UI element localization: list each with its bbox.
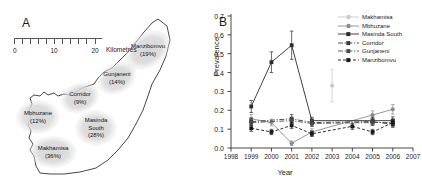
region-label: Mbhuzane(12%) bbox=[24, 110, 52, 125]
chart-series bbox=[330, 70, 334, 102]
data-point bbox=[270, 130, 274, 134]
x-tick-label: 1999 bbox=[244, 153, 258, 160]
map-outline-svg bbox=[0, 0, 200, 183]
region-name: Gunjaneni bbox=[103, 71, 130, 79]
region-prevalence: (12%) bbox=[24, 117, 52, 125]
y-tick-label: 0.4 bbox=[204, 69, 224, 76]
legend-item: Mbhuzane bbox=[338, 22, 402, 30]
region-label: Corridor(9%) bbox=[69, 91, 91, 106]
legend-marker bbox=[338, 56, 359, 64]
scale-tick-10: 10 bbox=[50, 47, 57, 54]
x-tick-label: 2001 bbox=[284, 153, 298, 160]
legend-label: Mbhuzane bbox=[362, 23, 390, 29]
chart-legend: MakhamisaMbhuzaneMasinda SouthCorridorGu… bbox=[338, 13, 402, 64]
data-point bbox=[391, 121, 395, 125]
data-point bbox=[371, 121, 375, 125]
legend-item: Masinda South bbox=[338, 30, 402, 38]
region-name: Manzibomvu bbox=[131, 43, 165, 51]
data-point bbox=[310, 122, 314, 126]
region-prevalence: (28%) bbox=[85, 132, 108, 140]
data-point bbox=[330, 84, 334, 88]
legend-marker bbox=[338, 39, 359, 47]
region-name: Masinda bbox=[85, 117, 108, 125]
y-tick-label: 0.2 bbox=[204, 107, 224, 114]
data-point bbox=[269, 120, 273, 124]
data-point bbox=[290, 141, 294, 145]
panel-b-chart: B Prevalence Year 0.00.10.20.30.40.50.60… bbox=[200, 0, 422, 183]
x-tick-label: 2006 bbox=[386, 153, 400, 160]
legend-label: Makhamisa bbox=[362, 14, 393, 20]
x-tick-label: 2005 bbox=[365, 153, 379, 160]
x-tick-label: 2003 bbox=[325, 153, 339, 160]
data-point bbox=[249, 105, 253, 109]
y-tick-label: 0.3 bbox=[204, 88, 224, 95]
region-name: South bbox=[85, 124, 108, 132]
x-tick-label: 2000 bbox=[264, 153, 278, 160]
data-point bbox=[249, 121, 253, 125]
scale-tick-20: 20 bbox=[91, 47, 98, 54]
y-tick-label: 0.0 bbox=[204, 145, 224, 152]
legend-marker bbox=[338, 47, 359, 55]
region-name: Mbhuzane bbox=[24, 110, 52, 118]
data-point bbox=[310, 132, 314, 136]
region-prevalence: (19%) bbox=[131, 50, 165, 58]
scale-bar-rule bbox=[14, 38, 102, 46]
x-tick-label: 2007 bbox=[406, 153, 420, 160]
data-point bbox=[391, 107, 395, 111]
scale-bar-ticks: 0 10 20 bbox=[14, 47, 102, 58]
data-point bbox=[270, 60, 274, 64]
y-tick-label: 0.7 bbox=[204, 13, 224, 20]
map-scale-bar: 0 10 20 Kilometres bbox=[14, 38, 102, 58]
legend-marker bbox=[338, 22, 359, 30]
y-tick-label: 0.1 bbox=[204, 126, 224, 133]
legend-label: Corridor bbox=[362, 40, 384, 46]
region-label: MasindaSouth(28%) bbox=[85, 117, 108, 140]
data-point bbox=[249, 126, 253, 130]
region-label: Gunjaneni(14%) bbox=[103, 71, 130, 86]
region-prevalence: (14%) bbox=[103, 78, 130, 86]
region-name: Makhamisa bbox=[38, 145, 69, 153]
figure-root: A bbox=[0, 0, 422, 183]
y-tick-label: 0.6 bbox=[204, 31, 224, 38]
region-prevalence: (9%) bbox=[69, 98, 91, 106]
legend-label: Manzibomvu bbox=[362, 57, 396, 63]
data-point bbox=[350, 124, 354, 128]
legend-item: Corridor bbox=[338, 39, 402, 47]
y-tick-label: 0.5 bbox=[204, 50, 224, 57]
x-tick-label: 2004 bbox=[345, 153, 359, 160]
panel-a-map: A bbox=[0, 0, 200, 183]
legend-marker bbox=[338, 13, 359, 21]
legend-item: Makhamisa bbox=[338, 13, 402, 21]
legend-label: Gunjaneni bbox=[362, 48, 389, 54]
data-point bbox=[371, 130, 375, 134]
legend-marker bbox=[338, 30, 359, 38]
scale-tick-0: 0 bbox=[13, 47, 17, 54]
data-point bbox=[290, 43, 294, 47]
region-prevalence: (36%) bbox=[38, 152, 69, 160]
region-name: Corridor bbox=[69, 91, 91, 99]
data-point bbox=[370, 113, 374, 117]
legend-item: Gunjaneni bbox=[338, 47, 402, 55]
region-label: Manzibomvu(19%) bbox=[131, 43, 165, 58]
legend-label: Masinda South bbox=[362, 31, 402, 37]
region-label: Makhamisa(36%) bbox=[38, 145, 69, 160]
data-point bbox=[290, 119, 294, 123]
legend-item: Manzibomvu bbox=[338, 56, 402, 64]
x-tick-label: 1998 bbox=[224, 153, 238, 160]
x-tick-label: 2002 bbox=[305, 153, 319, 160]
data-point bbox=[290, 123, 294, 127]
